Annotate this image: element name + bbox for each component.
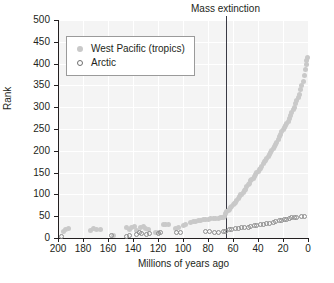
- gridline-vertical: [308, 20, 309, 238]
- y-axis-tick-label: 450: [0, 37, 50, 47]
- y-axis-tick-label: 200: [0, 146, 50, 156]
- y-axis-tick-label: 150: [0, 168, 50, 178]
- gridline-vertical: [258, 20, 259, 238]
- data-point-west-pacific: [305, 55, 310, 60]
- data-point-arctic: [302, 214, 307, 219]
- y-axis-tick: [54, 20, 58, 21]
- x-axis-line: [58, 238, 309, 239]
- y-axis-tick-label: 500: [0, 15, 50, 25]
- data-point-west-pacific: [297, 92, 302, 97]
- legend-item-west-pacific: West Pacific (tropics): [73, 42, 185, 56]
- mass-extinction-line: [226, 16, 227, 238]
- legend-label: Arctic: [91, 58, 116, 68]
- filled-circle-icon: [73, 46, 87, 52]
- y-axis-tick-label: 100: [0, 189, 50, 199]
- x-axis-title: Millions of years ago: [58, 258, 309, 269]
- y-axis-tick-label: 50: [0, 211, 50, 221]
- x-axis-tick: [158, 238, 159, 242]
- data-point-arctic: [178, 230, 183, 235]
- data-point-west-pacific: [166, 222, 171, 227]
- x-axis-tick: [258, 238, 259, 242]
- y-axis-tick: [54, 129, 58, 130]
- chart-legend: West Pacific (tropics) Arctic: [66, 36, 195, 76]
- y-axis-tick: [54, 216, 58, 217]
- y-axis-tick: [54, 107, 58, 108]
- x-axis-tick: [58, 238, 59, 242]
- x-axis-tick-label: 0: [293, 244, 323, 254]
- data-point-west-pacific: [301, 79, 306, 84]
- data-point-arctic: [127, 233, 132, 238]
- x-axis-tick: [183, 238, 184, 242]
- y-axis-line: [58, 20, 59, 239]
- y-axis-tick-label: 350: [0, 80, 50, 90]
- gridline-vertical: [208, 20, 209, 238]
- data-point-arctic: [147, 231, 152, 236]
- legend-label: West Pacific (tropics): [91, 44, 185, 54]
- y-axis-tick: [54, 194, 58, 195]
- y-axis-tick-label: 400: [0, 59, 50, 69]
- y-axis-tick: [54, 42, 58, 43]
- data-point-arctic: [216, 230, 221, 235]
- y-axis-tick: [54, 64, 58, 65]
- x-axis-tick: [83, 238, 84, 242]
- mass-extinction-label: Mass extinction: [191, 3, 260, 14]
- x-axis-tick: [208, 238, 209, 242]
- y-axis-tick-label: 0: [0, 233, 50, 243]
- x-axis-tick: [108, 238, 109, 242]
- y-axis-tick: [54, 85, 58, 86]
- x-axis-tick: [233, 238, 234, 242]
- y-axis-tick: [54, 151, 58, 152]
- data-point-west-pacific: [66, 226, 71, 231]
- legend-item-arctic: Arctic: [73, 56, 185, 70]
- x-axis-tick: [308, 238, 309, 242]
- y-axis-tick-label: 250: [0, 124, 50, 134]
- scatter-chart-figure: Rank Millions of years ago Mass extincti…: [0, 0, 334, 283]
- y-axis-tick-label: 300: [0, 102, 50, 112]
- y-axis-tick: [54, 173, 58, 174]
- x-axis-tick: [283, 238, 284, 242]
- data-point-west-pacific: [98, 227, 103, 232]
- open-circle-icon: [73, 60, 87, 66]
- x-axis-tick: [133, 238, 134, 242]
